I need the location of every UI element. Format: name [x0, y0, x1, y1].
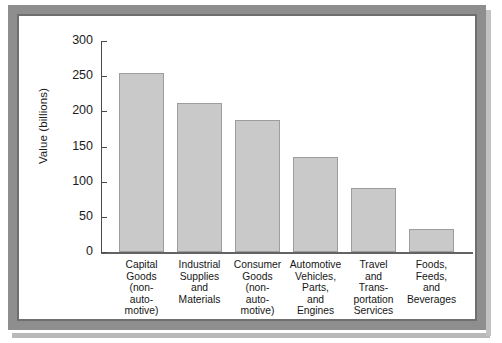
x-axis-category-label-line: and — [168, 282, 231, 294]
x-axis-category-label: TravelandTrans-portationServices — [342, 259, 405, 317]
x-axis-category-label-line: auto- — [110, 294, 173, 306]
bar — [293, 157, 338, 252]
x-axis-category-label-line: motive) — [110, 305, 173, 317]
x-axis-category-label-line: Automotive — [284, 259, 347, 271]
x-axis-category-label-line: and — [342, 271, 405, 283]
x-axis-category-label-line: Supplies — [168, 271, 231, 283]
x-axis-category-label-line: Industrial — [168, 259, 231, 271]
x-axis-category-label-line: and — [284, 294, 347, 306]
figure-inner-border: Value (billions) 050100150200250300 Capi… — [17, 14, 477, 321]
x-axis-category-label-line: portation — [342, 294, 405, 306]
x-axis-category-label-line: and — [400, 282, 463, 294]
x-axis-category-label-line: Consumer — [226, 259, 289, 271]
x-axis-category-label-line: (non- — [226, 282, 289, 294]
bar — [409, 229, 454, 252]
bar-chart: Value (billions) 050100150200250300 Capi… — [19, 16, 497, 341]
x-axis-category-label-line: motive) — [226, 305, 289, 317]
x-axis-category-label-line: Travel — [342, 259, 405, 271]
x-axis-category-label-line: Feeds, — [400, 271, 463, 283]
x-axis-category-label-line: Engines — [284, 305, 347, 317]
bar — [351, 188, 396, 252]
x-axis-category-label-line: Goods — [226, 271, 289, 283]
x-axis-category-label: Foods,Feeds,andBeverages — [400, 259, 463, 305]
x-axis-category-label-line: Parts, — [284, 282, 347, 294]
x-axis-category-label-line: Beverages — [400, 294, 463, 306]
x-axis-category-label: IndustrialSuppliesandMaterials — [168, 259, 231, 305]
x-axis-category-label-line: (non- — [110, 282, 173, 294]
x-axis-category-label-line: Vehicles, — [284, 271, 347, 283]
x-axis-category-label: CapitalGoods(non-auto-motive) — [110, 259, 173, 317]
bar — [235, 120, 280, 252]
x-axis-category-label-line: Capital — [110, 259, 173, 271]
x-axis-category-label: AutomotiveVehicles,Parts,andEngines — [284, 259, 347, 317]
figure-shadow-right — [486, 10, 491, 336]
bar — [119, 73, 164, 252]
x-axis-category-label-line: auto- — [226, 294, 289, 306]
x-axis-category-label-line: Trans- — [342, 282, 405, 294]
x-axis-category-label-line: Goods — [110, 271, 173, 283]
figure-frame: Value (billions) 050100150200250300 Capi… — [8, 5, 486, 330]
figure-shadow-bottom — [12, 333, 490, 338]
x-axis-category-label: ConsumerGoods(non-auto-motive) — [226, 259, 289, 317]
bar — [177, 103, 222, 252]
x-axis-category-label-line: Materials — [168, 294, 231, 306]
x-axis-category-label-line: Services — [342, 305, 405, 317]
x-axis-category-label-line: Foods, — [400, 259, 463, 271]
